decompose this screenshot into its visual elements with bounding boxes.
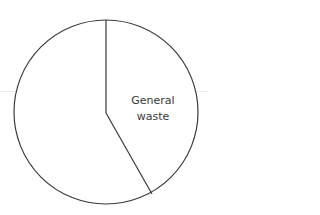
slice-label-line-1: General	[122, 93, 184, 109]
slice-label-line-2: waste	[122, 109, 184, 125]
slice-label-general-waste: General waste	[122, 93, 184, 125]
